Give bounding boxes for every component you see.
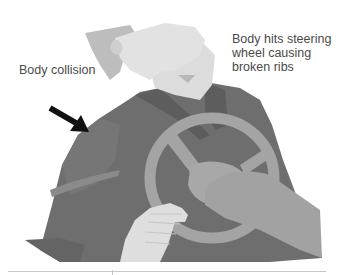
bottom-rule-divider (8, 271, 326, 272)
impact-arrow-icon (50, 108, 89, 132)
collision-label: Body collision (19, 63, 95, 77)
steering-injury-label: Body hits steering wheel causing broken … (232, 32, 331, 74)
bottom-rule-tick (112, 270, 113, 275)
